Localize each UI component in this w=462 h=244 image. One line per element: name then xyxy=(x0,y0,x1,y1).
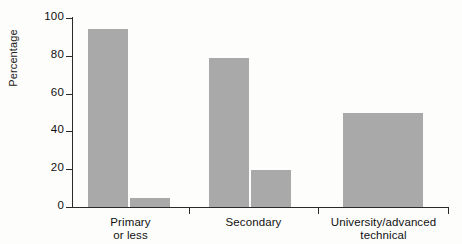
y-tick-label: 80 xyxy=(51,48,64,60)
x-category-label-line1: University/advanced xyxy=(331,216,436,228)
bar-secondary-2 xyxy=(251,170,291,207)
x-tick-mark-0 xyxy=(189,208,190,214)
y-axis-tick-group: 100806040200 xyxy=(0,0,80,244)
y-tick-label: 0 xyxy=(57,199,64,211)
bar-primary-1 xyxy=(88,29,128,207)
plot-area xyxy=(72,18,449,207)
y-tick-label: 60 xyxy=(51,86,64,98)
bar-university-1 xyxy=(343,113,383,208)
bar-group-0 xyxy=(72,18,189,207)
y-tick-label: 40 xyxy=(51,123,64,135)
x-category-label-line2: or less xyxy=(58,229,203,242)
bar-group-1 xyxy=(189,18,318,207)
y-tick-label: 20 xyxy=(51,161,64,173)
bar-primary-2 xyxy=(130,198,170,207)
x-category-label-line1: Secondary xyxy=(226,216,282,228)
bar-chart: Percentage 100806040200 Primaryor lessSe… xyxy=(0,0,462,244)
y-tick-label: 100 xyxy=(44,10,64,22)
bar-group-2 xyxy=(318,18,449,207)
bar-secondary-1 xyxy=(209,58,249,207)
x-category-label-line2: technical xyxy=(304,229,462,242)
x-tick-mark-2 xyxy=(448,208,449,214)
x-tick-mark-1 xyxy=(318,208,319,214)
x-axis-line xyxy=(72,207,449,208)
x-category-label-line1: Primary xyxy=(110,216,150,228)
bar-university-2 xyxy=(383,113,423,207)
x-category-label-2: University/advancedtechnical xyxy=(304,216,462,242)
